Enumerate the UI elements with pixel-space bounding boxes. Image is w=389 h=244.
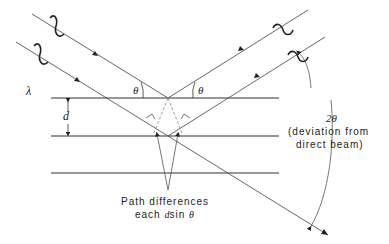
arrow-icon	[238, 46, 244, 51]
reflected-rays	[168, 10, 325, 136]
dashed-perp-right	[168, 98, 182, 133]
dashed-perp-left	[154, 98, 168, 133]
path-diff-line1: Path differences	[121, 196, 209, 207]
angle-arcs	[141, 82, 195, 98]
wave-icons	[34, 16, 308, 64]
path-diff-line2: each dsin θ	[135, 209, 194, 220]
arrow-icon	[74, 77, 80, 82]
right-angle-right	[181, 114, 190, 119]
theta-reflected-label: θ	[198, 84, 203, 96]
arrow-icon	[321, 229, 328, 235]
theta-arc-incident	[141, 82, 143, 98]
wave-icon	[288, 51, 308, 61]
spacing-label: d	[63, 109, 69, 124]
incident-ray-1	[32, 14, 168, 98]
right-angle-left	[146, 114, 155, 119]
bragg-diagram: λ d θ θ 2θ (deviation from direct beam) …	[0, 0, 389, 244]
dashed-construction	[154, 98, 182, 133]
theta-incident-label: θ	[133, 84, 138, 96]
right-angle-marks	[146, 114, 190, 119]
deviation-line1: (deviation from	[288, 126, 369, 137]
theta-arc-reflected	[193, 82, 195, 98]
arrow-icon	[254, 73, 260, 78]
reflected-ray-2	[168, 37, 325, 136]
crystal-planes	[51, 98, 279, 173]
wavelength-label: λ	[26, 84, 31, 99]
deviation-arc-upper	[298, 52, 311, 88]
deviation-angle-label: 2θ	[326, 112, 337, 124]
path-difference-pointers	[157, 134, 178, 190]
reflected-ray-1	[168, 10, 308, 98]
deviation-line2: direct beam)	[296, 139, 364, 150]
